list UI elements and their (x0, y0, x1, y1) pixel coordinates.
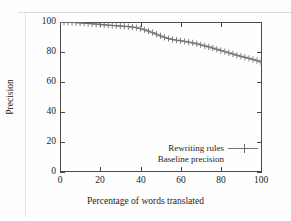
legend-entry-rewriting-rules: Rewriting rules (148, 143, 258, 154)
legend: Rewriting rules Baseline precision (148, 143, 258, 164)
x-tick-label-100: 100 (246, 176, 276, 186)
x-axis-label: Percentage of words translated (0, 196, 291, 206)
x-tick-label-80: 80 (206, 176, 236, 186)
y-tick-label-100: 100 (42, 17, 56, 27)
y-tick-mark-right-0 (257, 172, 262, 173)
x-tick-label-60: 60 (166, 176, 196, 186)
legend-label-rewriting-rules: Rewriting rules (168, 143, 228, 154)
x-tick-label-20: 20 (85, 176, 115, 186)
x-tick-label-0: 0 (45, 176, 75, 186)
precision-vs-words-translated-chart: 100 80 60 40 20 0 0 20 40 60 80 100 Perc… (0, 0, 291, 221)
y-tick-label-80: 80 (47, 47, 57, 57)
y-tick-label-60: 60 (47, 77, 57, 87)
y-tick-label-20: 20 (47, 137, 57, 147)
y-tick-mark-0 (60, 172, 65, 173)
x-tick-label-40: 40 (126, 176, 156, 186)
legend-sample-baseline-precision (228, 154, 258, 163)
y-tick-label-40: 40 (47, 107, 57, 117)
legend-label-baseline-precision: Baseline precision (158, 154, 228, 165)
legend-sample-rewriting-rules (228, 144, 258, 153)
plus-marker-icon (241, 144, 248, 153)
legend-entry-baseline-precision: Baseline precision (148, 154, 258, 165)
y-axis-label: Precision (5, 67, 15, 127)
